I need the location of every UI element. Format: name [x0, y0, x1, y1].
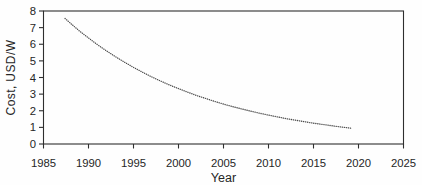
x-tick-label: 2005	[211, 157, 236, 169]
chart-canvas: 198519901995200020052010201520202025 012…	[0, 0, 422, 185]
x-tick-label: 2020	[346, 157, 371, 169]
y-tick-label: 2	[30, 105, 36, 117]
y-axis: 012345678	[30, 5, 44, 150]
y-tick-label: 6	[30, 38, 36, 50]
x-axis: 198519901995200020052010201520202025	[31, 144, 416, 169]
x-tick-label: 1990	[76, 157, 101, 169]
x-tick-label: 2025	[391, 157, 416, 169]
y-tick-label: 0	[30, 138, 36, 150]
cost-curve	[65, 19, 351, 129]
y-tick-label: 4	[30, 72, 36, 84]
y-tick-label: 1	[30, 121, 36, 133]
x-tick-label: 2000	[166, 157, 191, 169]
y-tick-label: 8	[30, 5, 36, 17]
x-tick-label: 2010	[256, 157, 281, 169]
x-tick-label: 2015	[301, 157, 326, 169]
x-axis-title: Year	[211, 171, 236, 185]
y-tick-label: 5	[30, 55, 36, 67]
cost-curve-underlay	[65, 19, 351, 129]
y-tick-label: 7	[30, 22, 36, 34]
cost-curve-dots	[65, 19, 351, 129]
y-axis-title: Cost, USD/W	[4, 39, 18, 115]
y-tick-label: 3	[30, 88, 36, 100]
x-tick-label: 1985	[31, 157, 56, 169]
cost-vs-year-chart: 198519901995200020052010201520202025 012…	[0, 0, 422, 185]
x-tick-label: 1995	[121, 157, 146, 169]
plot-border	[44, 11, 404, 144]
